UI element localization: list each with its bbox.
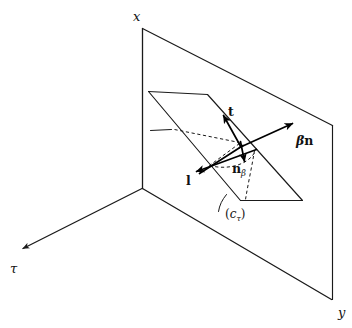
beta-subscript: β <box>241 168 246 178</box>
inclined-plane-right-edge <box>208 95 303 201</box>
n-base-symbol: n <box>232 161 241 176</box>
l-vector-arrow <box>197 150 257 172</box>
inclined-plane-top-edge <box>149 92 208 95</box>
inclined-plane-left-edge <box>149 92 241 201</box>
dashed-horizontal-guide <box>175 130 240 143</box>
n-symbol: n <box>304 133 313 148</box>
t-vector-arrow <box>224 116 242 148</box>
tau-axis-line <box>23 189 142 249</box>
vertical-plane-top-edge <box>143 29 333 126</box>
beta-n-vector-arrow <box>240 124 293 148</box>
figure-root: x τ y t βn nβ l (cτ) <box>0 0 352 328</box>
n-beta-vector-label: nβ <box>232 163 246 176</box>
y-axis-label: y <box>338 306 345 319</box>
y-axis-line <box>143 189 332 300</box>
tau-axis-label: τ <box>10 262 17 275</box>
l-vector-label: l <box>186 175 191 188</box>
axes-group <box>23 29 332 300</box>
n-beta-vector-arrow <box>241 142 245 162</box>
x-axis-label: x <box>133 10 140 23</box>
diagram-canvas <box>0 0 352 328</box>
tau-subscript: τ <box>236 214 240 223</box>
inclined-plane <box>149 92 303 201</box>
c-tau-label: (cτ) <box>225 208 246 220</box>
beta-n-vector-label: βn <box>296 135 313 148</box>
t-vector-label: t <box>228 106 234 119</box>
left-tick-mark <box>151 130 172 131</box>
